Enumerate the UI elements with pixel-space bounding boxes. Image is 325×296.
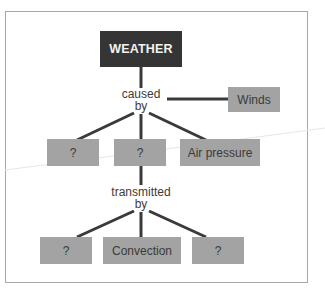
link-label-caused-by: caused by xyxy=(115,88,167,112)
node-level1-unknown-2-label: ? xyxy=(137,146,144,160)
node-convection-label: Convection xyxy=(112,244,172,258)
link-label-transmitted-by: transmitted by xyxy=(106,186,176,210)
node-level1-unknown-1-label: ? xyxy=(70,146,77,160)
node-convection: Convection xyxy=(103,237,181,264)
node-winds: Winds xyxy=(228,87,280,112)
link-label-caused-line2: by xyxy=(115,100,167,112)
node-weather-label: WEATHER xyxy=(109,42,173,56)
node-level1-unknown-2: ? xyxy=(114,139,166,166)
node-level2-unknown-1-label: ? xyxy=(63,244,70,258)
node-air-pressure-label: Air pressure xyxy=(188,146,253,160)
link-label-transmitted-line2: by xyxy=(106,198,176,210)
node-air-pressure: Air pressure xyxy=(180,139,260,166)
node-level2-unknown-1: ? xyxy=(40,237,92,264)
node-winds-label: Winds xyxy=(237,93,270,107)
node-level1-unknown-1: ? xyxy=(47,139,99,166)
node-weather: WEATHER xyxy=(100,31,182,67)
node-level2-unknown-2-label: ? xyxy=(215,244,222,258)
node-level2-unknown-2: ? xyxy=(192,237,244,264)
